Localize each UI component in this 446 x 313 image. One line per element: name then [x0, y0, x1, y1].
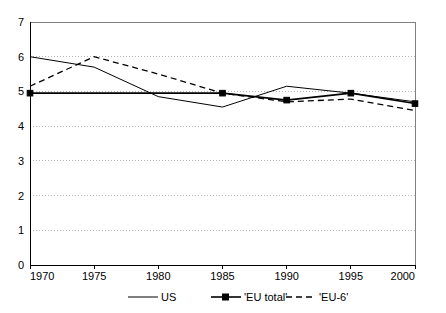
y-tick-label: 2 — [18, 190, 24, 202]
x-tick-label: 1970 — [30, 270, 54, 282]
x-tick-label: 1985 — [210, 270, 234, 282]
x-tick-label: 1980 — [146, 270, 170, 282]
legend-marker-eu-total — [223, 294, 229, 300]
x-tick-label: 1990 — [274, 270, 298, 282]
y-tick-label: 4 — [18, 120, 24, 132]
series-marker-eu-total — [220, 90, 226, 96]
y-tick-label: 0 — [18, 259, 24, 271]
x-tick-label: 2000 — [391, 270, 415, 282]
series-marker-eu-total — [27, 90, 33, 96]
series-marker-eu-total — [348, 90, 354, 96]
legend: US 'EU total' 'EU-6' — [128, 291, 348, 303]
y-tick-label: 5 — [18, 85, 24, 97]
chart-canvas: 7 6 5 4 3 2 1 0 1970 1975 1980 1985 1990… — [0, 0, 446, 313]
y-tick-label: 7 — [18, 16, 24, 28]
series-marker-eu-total — [284, 97, 290, 103]
x-tick-marks — [30, 265, 415, 269]
x-axis-labels: 1970 1975 1980 1985 1990 1995 2000 — [30, 270, 415, 282]
y-tick-label: 6 — [18, 51, 24, 63]
series-marker-eu-total — [412, 101, 418, 107]
legend-label-eu-total: 'EU total' — [244, 291, 287, 303]
plot-background — [30, 22, 415, 265]
y-axis-labels: 7 6 5 4 3 2 1 0 — [18, 16, 24, 271]
x-tick-label: 1975 — [82, 270, 106, 282]
legend-label-eu-6: 'EU-6' — [319, 291, 348, 303]
y-tick-label: 3 — [18, 155, 24, 167]
line-chart: 7 6 5 4 3 2 1 0 1970 1975 1980 1985 1990… — [0, 0, 446, 313]
legend-label-us: US — [161, 291, 176, 303]
x-tick-label: 1995 — [339, 270, 363, 282]
y-tick-label: 1 — [18, 224, 24, 236]
